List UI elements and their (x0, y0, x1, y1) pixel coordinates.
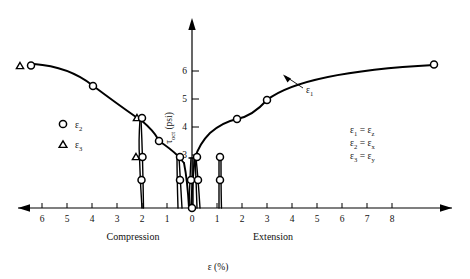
x-tick-label-6R: 6 (340, 214, 345, 224)
x-tick-label-3R: 3 (265, 214, 270, 224)
relation-row-2: ε2 = εx (350, 138, 375, 150)
relation-2-rhs-sub: x (371, 143, 375, 150)
relation-3-rhs-sub: y (371, 156, 375, 163)
y-axis-title-group: τoct (psi) (164, 112, 176, 144)
marker-circle (264, 97, 271, 104)
relation-row-1: ε1 = εz (350, 125, 374, 137)
marker-circle (217, 177, 224, 184)
marker-circle (139, 115, 146, 122)
marker-circle (188, 177, 195, 184)
x-tick-label-4L: 4 (90, 214, 95, 224)
curve-epsilon-1-plunge-center (184, 163, 189, 208)
y-axis-arrow-icon (188, 18, 195, 30)
region-label-extension: Extension (253, 231, 293, 242)
x-tick-label-1L: 1 (165, 214, 170, 224)
y-axis-title: τoct (psi) (164, 112, 176, 144)
x-tick-label-5R: 5 (315, 214, 320, 224)
x-tick-label-6L: 6 (40, 214, 45, 224)
annotation-arrow-icon (283, 75, 291, 83)
x-axis-title: ε (%) (208, 262, 229, 273)
x-tick-label-3L: 3 (115, 214, 120, 224)
x-tick-label-1R: 1 (215, 214, 220, 224)
y-tick-label-4: 4 (182, 122, 187, 132)
x-tick-label-0: 0 (190, 214, 195, 224)
marker-triangle (16, 63, 23, 69)
chart-svg: 6 5 4 3 2 1 0 1 2 3 4 5 6 7 8 Compressio… (0, 0, 470, 279)
legend-subscript-3: 3 (79, 145, 83, 152)
marker-circle (189, 205, 196, 212)
marker-circle (28, 62, 35, 69)
relation-row-3: ε3 = εy (350, 151, 375, 163)
legend-item-epsilon-2: ε2 (75, 120, 82, 132)
legend-item-epsilon-3: ε3 (75, 140, 83, 152)
x-tick-label-7R: 7 (365, 214, 370, 224)
curve-epsilon-leg-c1-a (139, 119, 140, 157)
y-tick-label-6: 6 (182, 66, 187, 76)
x-tick-label-8R: 8 (390, 214, 395, 224)
annotation-label: ε1 (306, 85, 313, 97)
y-tick-label-5: 5 (182, 94, 187, 104)
relation-1-rhs-sub: z (371, 130, 374, 137)
marker-circle (139, 154, 146, 161)
x-tick-label-4R: 4 (290, 214, 295, 224)
region-label-compression: Compression (107, 231, 160, 242)
y-axis-title-subscript: oct (169, 132, 176, 140)
legend-subscript-2: 2 (79, 125, 82, 132)
figure-container: 6 5 4 3 2 1 0 1 2 3 4 5 6 7 8 Compressio… (0, 0, 470, 279)
curve-epsilon-1-left (34, 64, 140, 119)
marker-circle (177, 177, 184, 184)
relations-block: ε1 = εz ε2 = εx ε3 = εy (350, 125, 375, 163)
curve-epsilon-1-rise-center (191, 119, 237, 208)
x-tick-label-5L: 5 (65, 214, 70, 224)
marker-circle (177, 154, 184, 161)
y-axis-title-unit-text: (psi) (164, 112, 175, 129)
annotation-subscript: 1 (310, 90, 313, 97)
x-axis: 6 5 4 3 2 1 0 1 2 3 4 5 6 7 8 Compressio… (18, 203, 452, 273)
x-tick-label-2R: 2 (240, 214, 245, 224)
marker-circle (194, 154, 201, 161)
x-axis-left-arrow-icon (18, 204, 30, 212)
legend-circle-icon (59, 120, 66, 127)
x-axis-right-arrow-icon (440, 204, 452, 212)
marker-circle (138, 177, 145, 184)
marker-circle (90, 83, 97, 90)
marker-circle (156, 138, 163, 145)
legend: ε2 ε3 (59, 120, 83, 152)
marker-circle (217, 154, 224, 161)
x-tick-label-2L: 2 (140, 214, 145, 224)
curve-epsilon-1-right (237, 65, 434, 119)
legend-triangle-icon (59, 141, 67, 148)
marker-circle (195, 177, 202, 184)
marker-circle (234, 116, 241, 123)
marker-circle (431, 61, 438, 68)
